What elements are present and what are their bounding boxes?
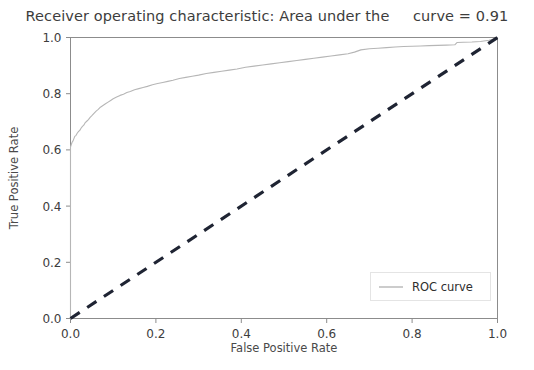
y-tick-label: 1.0: [42, 31, 61, 45]
roc-chart-figure: Receiver operating characteristic: Area …: [0, 0, 534, 370]
y-tick-label: 0.4: [42, 200, 61, 214]
y-axis-ticks: 0.00.20.40.60.81.0: [42, 31, 70, 326]
y-axis-label: True Positive Rate: [7, 127, 21, 230]
legend-label-roc-curve: ROC curve: [412, 280, 473, 294]
chart-legend[interactable]: ROC curve: [371, 273, 491, 301]
x-axis-ticks: 0.00.20.40.60.81.0: [61, 319, 507, 341]
x-axis-label: False Positive Rate: [231, 341, 338, 355]
y-tick-label: 0.0: [42, 312, 61, 326]
x-tick-label: 0.0: [61, 327, 80, 341]
y-tick-label: 0.6: [42, 143, 61, 157]
x-tick-label: 0.8: [403, 327, 422, 341]
x-tick-label: 1.0: [488, 327, 507, 341]
x-tick-label: 0.6: [317, 327, 336, 341]
y-tick-label: 0.2: [42, 256, 61, 270]
x-tick-label: 0.2: [146, 327, 165, 341]
x-tick-label: 0.4: [232, 327, 251, 341]
y-tick-label: 0.8: [42, 87, 61, 101]
plot-area: 0.00.20.40.60.81.0 0.00.20.40.60.81.0 Fa…: [0, 0, 534, 370]
